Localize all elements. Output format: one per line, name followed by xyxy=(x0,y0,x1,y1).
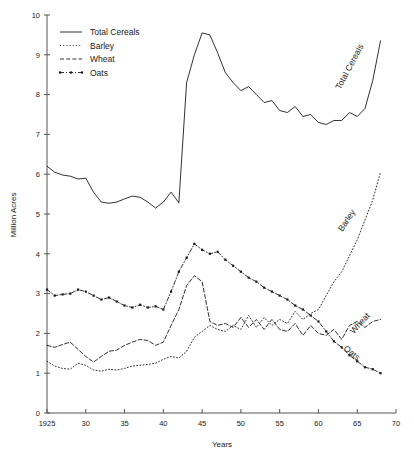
series-line-barley xyxy=(47,172,380,371)
series-markers-oats xyxy=(46,243,382,375)
y-tick-label: 2 xyxy=(36,329,40,338)
x-tick-label: 40 xyxy=(159,419,167,428)
x-tick-label: 30 xyxy=(82,419,90,428)
y-tick-label: 9 xyxy=(36,51,40,60)
chart-series-group xyxy=(46,33,382,374)
inline-label-oats: Oats xyxy=(342,343,362,362)
x-tick-label: 70 xyxy=(392,419,400,428)
x-tick-label: 45 xyxy=(198,419,206,428)
y-tick-label: 0 xyxy=(36,409,40,418)
legend-label-wheat: Wheat xyxy=(90,54,115,64)
legend-label-barley: Barley xyxy=(90,41,115,51)
y-tick-label: 6 xyxy=(36,170,40,179)
y-axis-title: Million Acres xyxy=(9,193,18,238)
x-axis-title: Years xyxy=(212,440,232,449)
cereal-acreage-line-chart: 012345678910 1925303540455055606570 Mill… xyxy=(0,0,414,458)
chart-figure: 012345678910 1925303540455055606570 Mill… xyxy=(0,0,414,458)
legend-label-total-cereals: Total Cereals xyxy=(90,27,140,37)
x-tick-label: 65 xyxy=(353,419,361,428)
y-tick-label: 4 xyxy=(36,250,40,259)
x-tick-label: 55 xyxy=(275,419,283,428)
y-tick-label: 10 xyxy=(32,11,40,20)
y-tick-label: 7 xyxy=(36,130,40,139)
x-tick-label: 50 xyxy=(237,419,245,428)
inline-label-total-cereals: Total Cereals xyxy=(333,42,365,90)
inline-label-barley: Barley xyxy=(336,207,358,233)
x-tick-label: 1925 xyxy=(39,419,56,428)
x-axis-ticks: 1925303540455055606570 xyxy=(39,409,401,428)
y-tick-label: 1 xyxy=(36,369,40,378)
y-tick-label: 8 xyxy=(36,90,40,99)
chart-legend: Total CerealsBarleyWheatOats xyxy=(59,27,140,78)
series-line-oats xyxy=(47,244,380,373)
x-tick-label: 60 xyxy=(314,419,322,428)
series-inline-labels: Total Cereals Barley Wheat Oats xyxy=(333,42,372,362)
y-tick-label: 5 xyxy=(36,210,40,219)
inline-label-wheat: Wheat xyxy=(348,310,372,335)
y-tick-label: 3 xyxy=(36,289,40,298)
x-tick-label: 35 xyxy=(120,419,128,428)
legend-label-oats: Oats xyxy=(90,68,108,78)
